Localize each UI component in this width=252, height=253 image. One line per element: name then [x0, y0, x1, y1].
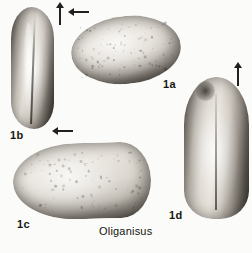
genus-caption: Oliganisus	[99, 226, 152, 237]
specimen-photo-1b	[11, 7, 54, 129]
left-arrow-icon-1a	[73, 11, 89, 13]
up-arrow-icon-1d	[237, 66, 239, 86]
specimen-photo-1c	[12, 141, 152, 221]
figure-label-1a: 1a	[163, 79, 176, 90]
figure-label-1d: 1d	[169, 210, 182, 221]
left-arrow-icon-1c	[57, 130, 73, 132]
specimen-photo-1d	[184, 77, 249, 219]
figure-label-1c: 1c	[17, 219, 30, 230]
fossil-plate-figure: 1a 1b 1c 1d Oliganisus	[0, 0, 252, 253]
specimen-1c-punctae	[12, 141, 152, 221]
figure-label-1b: 1b	[10, 130, 23, 141]
specimen-1d-median-ridge	[215, 94, 217, 210]
up-arrow-icon-1b	[59, 6, 61, 25]
